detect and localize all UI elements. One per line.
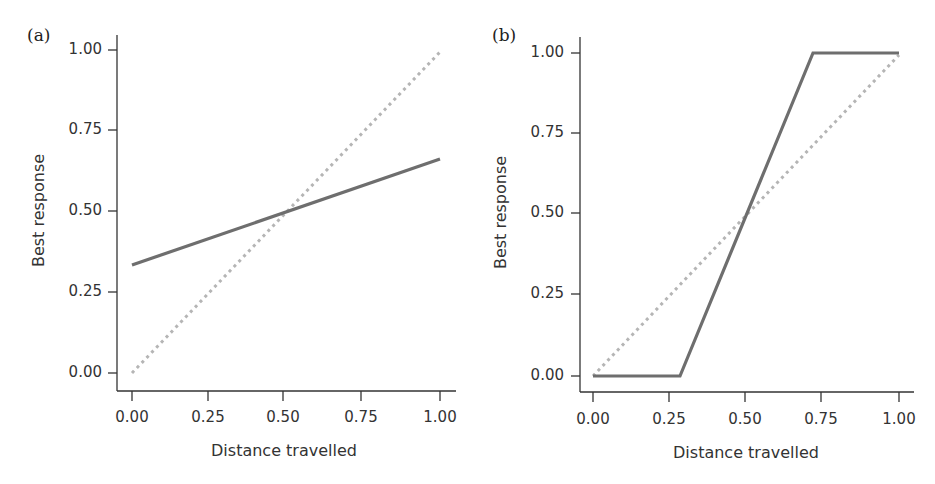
x-tick-label: 0.25	[178, 408, 238, 426]
y-tick-label: 0.25	[514, 284, 564, 302]
x-tick-label: 0.75	[331, 408, 391, 426]
y-ticks-a	[108, 50, 117, 373]
y-axis-title-a: Best response	[29, 111, 48, 311]
x-tick-label: 0.00	[102, 408, 162, 426]
y-tick-label: 0.50	[52, 201, 102, 219]
panel-label-a: (a)	[27, 25, 50, 45]
y-tick-label: 1.00	[52, 40, 102, 58]
plot-area-b	[465, 0, 935, 484]
best-response-line-a	[132, 159, 440, 265]
x-tick-label: 0.25	[639, 410, 699, 428]
panel-b: (b) 1.00 0.75 0.50 0.25 0.00 0.00 0.25 0…	[465, 0, 932, 484]
y-tick-label: 0.25	[52, 282, 102, 300]
y-tick-label: 0.50	[514, 203, 564, 221]
x-tick-label: 0.75	[791, 410, 851, 428]
x-axis-title-b: Distance travelled	[616, 443, 876, 462]
x-tick-label: 0.00	[563, 410, 623, 428]
y-tick-label: 0.00	[514, 366, 564, 384]
x-axis-title-a: Distance travelled	[154, 441, 414, 460]
x-tick-label: 1.00	[869, 410, 929, 428]
x-tick-label: 0.50	[715, 410, 775, 428]
x-tick-label: 1.00	[410, 408, 470, 426]
panel-a: (a) 1.00 0.75 0.50 0.25 0.00 0.00 0.25 0…	[0, 0, 467, 484]
x-ticks-a	[132, 391, 440, 401]
y-tick-label: 0.00	[52, 363, 102, 381]
y-axis-title-b: Best response	[491, 113, 510, 313]
y-tick-label: 0.75	[52, 120, 102, 138]
panel-label-b: (b)	[492, 25, 516, 45]
y-tick-label: 0.75	[514, 123, 564, 141]
y-ticks-b	[571, 53, 580, 376]
x-ticks-b	[593, 392, 899, 402]
x-tick-label: 0.50	[253, 408, 313, 426]
y-tick-label: 1.00	[514, 43, 564, 61]
